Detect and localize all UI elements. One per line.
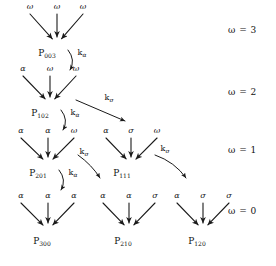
arm-stroke <box>136 138 157 159</box>
diagram-strokes <box>0 0 276 266</box>
transition-arrow-t-p201-p300 <box>59 170 64 190</box>
rate-label-t-p111-p120: kσ <box>161 145 170 154</box>
node-subscript: 201 <box>35 172 46 179</box>
arm-symbol-p111-0: α <box>103 127 108 135</box>
node-p210[interactable]: P210 <box>114 237 132 247</box>
arm-symbol-p003-2: ω <box>80 3 87 11</box>
arm-symbol-p300-1: α <box>45 192 50 200</box>
row-legend-omega-1: ω = 1 <box>228 146 257 155</box>
node-p300[interactable]: P300 <box>33 237 51 247</box>
rate-label-t-p102-p201: kα <box>71 109 80 118</box>
rate-subscript: α <box>82 51 86 58</box>
row-legend-omega-0: ω = 0 <box>228 207 257 216</box>
arm-symbol-p003-1: ω <box>54 3 61 11</box>
arm-symbol-p210-1: α <box>126 192 131 200</box>
node-subscript: 111 <box>119 172 130 179</box>
rate-label-t-p201-p300: kα <box>69 169 78 178</box>
transition-arrow-t-p111-p120 <box>155 155 186 178</box>
rate-subscript: α <box>75 111 79 118</box>
arm-symbol-p120-2: σ <box>226 192 231 200</box>
arm-stroke <box>21 203 43 225</box>
arm-symbol-p102-2: ω <box>73 65 80 73</box>
arm-symbol-p210-2: σ <box>152 192 157 200</box>
arm-stroke <box>53 138 74 159</box>
arm-symbol-p300-2: α <box>71 192 76 200</box>
rate-label-t-p201-p210: kσ <box>80 148 89 157</box>
node-p201[interactable]: P201 <box>29 169 47 179</box>
node-p120[interactable]: P120 <box>188 237 206 247</box>
row-legend-omega-3: ω = 3 <box>228 26 257 35</box>
arm-stroke <box>208 203 229 225</box>
node-subscript: 300 <box>39 240 50 247</box>
arm-symbol-p111-1: σ <box>128 127 133 135</box>
node-p102[interactable]: P102 <box>31 109 49 119</box>
arm-symbol-p111-2: ω <box>154 127 161 135</box>
arm-symbol-p120-0: α <box>174 192 179 200</box>
node-subscript: 210 <box>120 240 131 247</box>
node-subscript: 003 <box>44 52 55 59</box>
arm-stroke <box>103 203 124 225</box>
node-arms-layer <box>21 14 229 225</box>
node-p111[interactable]: P111 <box>113 169 131 179</box>
figure-canvas: ωωωP003αωωP102ααωP201ασωP111αααP300αασP2… <box>0 0 276 266</box>
arm-stroke <box>21 138 43 159</box>
node-subscript: 120 <box>194 240 205 247</box>
arm-stroke <box>62 14 83 39</box>
node-subscript: 102 <box>37 112 48 119</box>
arm-stroke <box>53 203 74 225</box>
rate-label-t-p102-p111: kσ <box>105 94 114 103</box>
rate-subscript: α <box>73 171 77 178</box>
arm-symbol-p003-0: ω <box>27 3 34 11</box>
transition-arrow-t-p102-p201 <box>61 110 66 130</box>
row-legend-omega-2: ω = 2 <box>228 88 257 97</box>
arm-symbol-p300-0: α <box>18 192 23 200</box>
arm-symbol-p201-1: α <box>45 127 50 135</box>
rate-subscript: σ <box>84 150 88 157</box>
rate-label-t-p003-p102: kα <box>78 49 87 58</box>
arm-stroke <box>177 203 198 225</box>
arm-symbol-p201-2: ω <box>71 127 78 135</box>
arm-stroke <box>55 76 76 99</box>
arm-stroke <box>134 203 155 225</box>
rate-subscript: σ <box>165 147 169 154</box>
arm-stroke <box>23 76 45 99</box>
arm-stroke <box>30 14 52 39</box>
arm-symbol-p201-0: α <box>18 127 23 135</box>
arm-symbol-p120-1: σ <box>200 192 205 200</box>
transition-arrow-t-p201-p210 <box>78 155 100 178</box>
arm-symbol-p210-0: α <box>100 192 105 200</box>
arm-stroke <box>106 138 126 159</box>
arm-symbol-p102-1: ω <box>47 65 54 73</box>
transition-arrow-t-p102-p111 <box>76 100 125 121</box>
node-p003[interactable]: P003 <box>38 49 56 59</box>
arm-symbol-p102-0: α <box>20 65 25 73</box>
rate-subscript: σ <box>109 96 113 103</box>
